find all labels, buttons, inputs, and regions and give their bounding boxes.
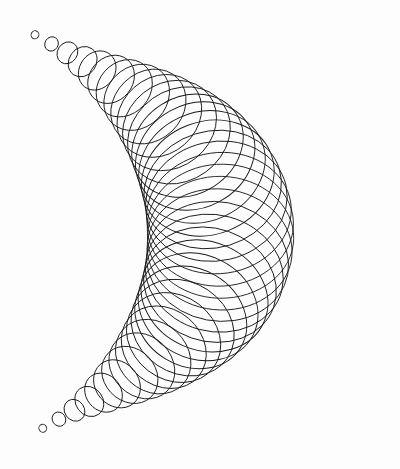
ellipse-stroke — [71, 43, 124, 97]
ellipse-stroke — [49, 409, 68, 429]
ellipse-stroke — [85, 48, 164, 128]
ellipse-stroke — [90, 335, 170, 415]
ellipse-stroke — [116, 81, 274, 231]
ellipse-stroke — [144, 160, 297, 291]
ellipse-stroke — [62, 41, 103, 83]
ellipse-stroke — [112, 73, 262, 218]
ellipse-family — [30, 29, 300, 433]
ellipse-stroke — [90, 51, 183, 144]
artwork-canvas: Plotter drawing: crescent of overlapping… — [0, 0, 400, 469]
ellipse-stroke — [37, 423, 48, 434]
crescent-ellipse-drawing — [0, 0, 400, 469]
ellipse-stroke — [53, 38, 82, 68]
ellipse-stroke — [108, 67, 249, 204]
ellipse-stroke — [132, 199, 297, 348]
ellipse-stroke — [78, 46, 144, 113]
ellipse-stroke — [69, 381, 110, 423]
ellipse-stroke — [108, 274, 238, 401]
ellipse-stroke — [60, 395, 89, 425]
ellipse-stroke — [112, 260, 253, 396]
ellipse-stroke — [42, 34, 61, 53]
ellipse-stroke — [146, 175, 295, 300]
ellipse-stroke — [30, 29, 41, 40]
